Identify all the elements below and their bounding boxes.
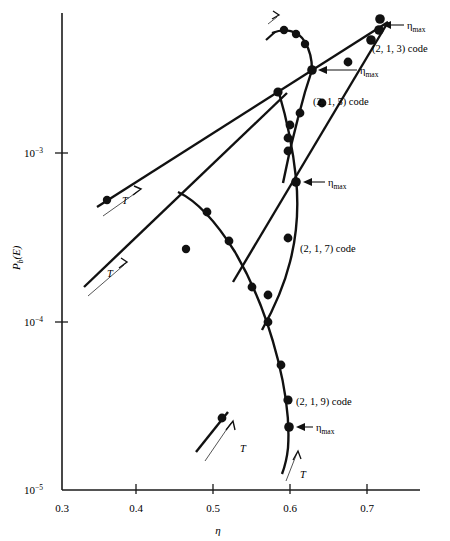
T-label-4: T: [300, 469, 307, 480]
y-tick-exp-3: −3: [35, 146, 43, 155]
eta-max-label-215: ηmax: [360, 65, 379, 79]
data-point: [248, 283, 257, 292]
eta-max-sub-219: max: [322, 427, 335, 436]
x-tick-label-0-5: 0.5: [206, 502, 220, 514]
eta-max-sub-215: max: [366, 70, 379, 79]
series-lower-diagonal-T-leader: [88, 265, 124, 296]
series-2-1-5: [266, 11, 317, 183]
eta-max-217-arrowhead: [303, 178, 312, 186]
series-label-2-1-5: (2, 1, 5) code: [313, 96, 369, 108]
data-point: [375, 14, 385, 24]
data-point: [284, 234, 293, 243]
series-bottom-left-T-arrowhead: [226, 421, 235, 430]
series-2-1-9-tail: [282, 448, 288, 474]
data-point: [103, 196, 111, 204]
T-label-3: T: [240, 443, 247, 454]
figure-container: 10−3 10−4 10−5 0.3 0.4 0.5 0.6 0.7 η Pb(…: [0, 0, 450, 541]
y-tick-label-1e-3: 10−3: [24, 146, 43, 159]
eta-max-label-213: ηmax: [407, 20, 426, 34]
data-point-eta-max: [307, 65, 317, 75]
eta-max-219-arrowhead: [296, 423, 305, 431]
x-tick-label-0-4: 0.4: [129, 502, 143, 514]
series-2-1-3-line: [97, 22, 388, 207]
eta-max-callouts: [296, 21, 404, 431]
series-2-1-9-line: [178, 192, 289, 448]
y-axis-title-rest: (E): [10, 245, 23, 259]
data-point: [292, 30, 300, 38]
series-2-1-3-T-arrowhead: [133, 186, 141, 195]
y-tick-exp-5: −5: [35, 483, 43, 492]
data-point: [264, 318, 273, 327]
data-point: [277, 361, 286, 370]
series-bottom-left-tail: [196, 412, 235, 461]
data-point: [225, 237, 234, 246]
eta-max-sub-217: max: [334, 182, 347, 191]
data-point-eta-max: [291, 177, 301, 187]
y-tick-label-1e-4: 10−4: [24, 315, 43, 328]
series-2-1-7: [262, 87, 301, 330]
x-tick-labels: 0.3 0.4 0.5 0.6 0.7: [55, 502, 374, 514]
x-tick-label-0-6: 0.6: [283, 502, 297, 514]
eta-max-sub-213: max: [413, 25, 426, 34]
data-point: [296, 109, 305, 118]
series-label-2-1-9: (2, 1, 9) code: [296, 396, 352, 408]
data-point: [203, 208, 212, 217]
series-2-1-9: [178, 192, 301, 481]
series-lower-diagonal-line: [84, 93, 287, 287]
axis-group: [55, 13, 420, 494]
eta-max-label-217: ηmax: [328, 177, 347, 191]
eta-max-215-arrowhead: [318, 66, 327, 74]
x-tick-label-0-3: 0.3: [55, 502, 69, 514]
data-point: [284, 134, 293, 143]
T-label-2: T: [107, 268, 114, 279]
series-2-1-3: [97, 22, 388, 253]
data-point: [301, 40, 309, 48]
data-point: [218, 414, 227, 423]
y-tick-exp-4: −4: [35, 315, 43, 324]
y-axis-title: Pb(E): [10, 245, 25, 271]
series-label-2-1-7: (2, 1, 7) code: [300, 243, 356, 255]
eta-max-label-219: ηmax: [316, 422, 335, 436]
data-point: [344, 58, 353, 67]
y-tick-label-1e-5: 10−5: [24, 483, 43, 496]
chart-svg: 10−3 10−4 10−5 0.3 0.4 0.5 0.6 0.7 η Pb(…: [0, 0, 450, 541]
series-2-1-5-T-tail: [266, 32, 275, 40]
data-point: [273, 87, 282, 96]
data-point: [264, 291, 273, 300]
x-tick-label-0-7: 0.7: [360, 502, 374, 514]
y-tick-labels: 10−3 10−4 10−5: [24, 146, 43, 496]
data-point: [283, 395, 292, 404]
series-2-1-9-T-arrowhead: [293, 451, 301, 460]
data-point-eta-max: [374, 25, 384, 35]
series-label-2-1-3: (2, 1, 3) code: [372, 43, 428, 55]
annotation-labels: ηmax ηmax ηmax ηmax (2, 1, 3) code (2, 1…: [107, 20, 428, 480]
T-label-1: T: [122, 195, 129, 206]
data-point-eta-max: [284, 422, 294, 432]
series-2-1-5-line: [272, 30, 312, 70]
x-axis-title: η: [215, 524, 220, 536]
data-point: [182, 245, 190, 253]
data-point: [280, 26, 288, 34]
